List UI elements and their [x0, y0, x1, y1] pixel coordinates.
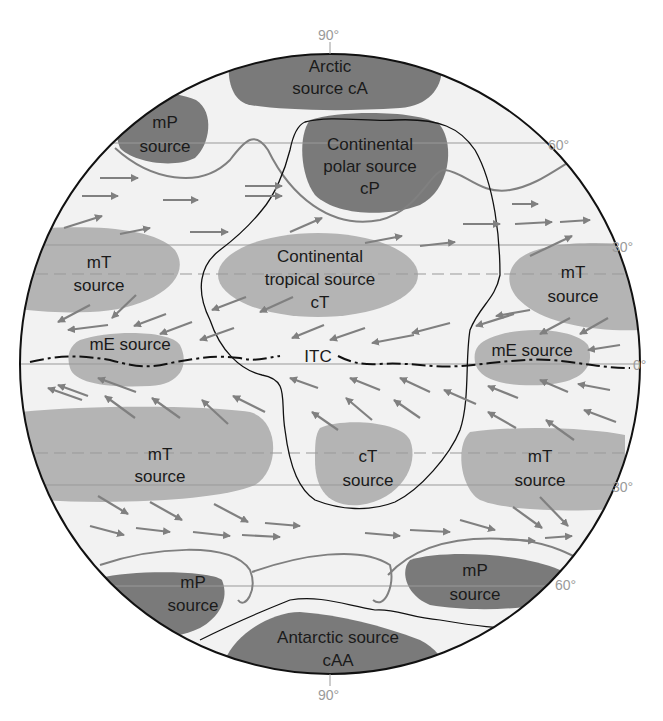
lat-label-90s: 90° — [318, 687, 339, 703]
ct-north-label-2: tropical source — [265, 270, 376, 289]
me-west-label: mE source — [89, 335, 170, 354]
cp-label-1: Continental — [327, 135, 413, 154]
air-mass-diagram: 90° 60° 30° 0° 30° 60° 90° Arctic source… — [0, 0, 663, 721]
lat-label-equator: 0° — [633, 357, 646, 373]
arctic-label-2: source cA — [292, 79, 368, 98]
lat-label-60s: 60° — [555, 577, 576, 593]
cp-label-2: polar source — [323, 157, 417, 176]
mt-nw-label-1: mT — [87, 253, 112, 272]
ct-north-label-1: Continental — [277, 247, 363, 266]
ct-south-label-1: cT — [359, 447, 378, 466]
cp-label-3: cP — [360, 179, 380, 198]
mt-sw-label-1: mT — [148, 445, 173, 464]
me-east-label: mE source — [491, 341, 572, 360]
mt-sw-label-2: source — [134, 467, 185, 486]
lat-label-90n: 90° — [318, 27, 339, 43]
mp-nw-label-1: mP — [152, 113, 178, 132]
mt-se-label-2: source — [514, 471, 565, 490]
mt-ne-label-2: source — [547, 287, 598, 306]
lat-label-30n: 30° — [612, 239, 633, 255]
ct-south-label-2: source — [342, 471, 393, 490]
lat-label-30s: 30° — [612, 479, 633, 495]
mp-se-label-1: mP — [462, 561, 488, 580]
antarctic-label-1: Antarctic source — [277, 628, 399, 647]
mp-nw-label-2: source — [139, 137, 190, 156]
antarctic-label-2: cAA — [322, 651, 354, 670]
itc-label: ITC — [304, 347, 331, 366]
mt-sw-region — [16, 407, 273, 502]
mp-sw-label-1: mP — [180, 573, 206, 592]
mp-sw-label-2: source — [167, 596, 218, 615]
lat-label-60n: 60° — [548, 137, 569, 153]
arctic-label-1: Arctic — [309, 57, 352, 76]
mp-se-label-2: source — [449, 585, 500, 604]
ct-north-label-3: cT — [311, 293, 330, 312]
mt-se-label-1: mT — [528, 447, 553, 466]
mt-ne-label-1: mT — [561, 263, 586, 282]
mt-se-region — [461, 428, 625, 510]
mt-nw-label-2: source — [73, 276, 124, 295]
